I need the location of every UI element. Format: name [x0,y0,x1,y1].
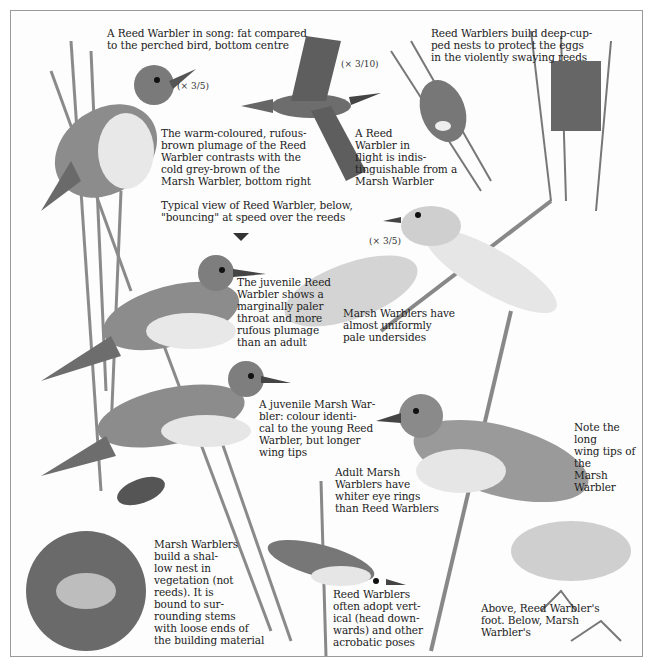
juvenile-reed-warbler-icon [41,255,266,381]
bouncing-bird-icon [233,233,249,241]
scale-marsh-bird: (× 3/5) [369,236,401,246]
caption-bouncing: Typical view of Reed Warbler, below, "bo… [161,199,353,223]
caption-reed-warbler-song: A Reed Warbler in song: fat compared to … [107,27,307,51]
caption-marsh-undersides: Marsh Warblers have almost uniformly pal… [343,307,455,343]
marsh-nest-icon [26,471,169,651]
caption-eye-rings: Adult Marsh Warblers have whiter eye rin… [335,466,439,514]
caption-reed-nests: Reed Warblers build deep-cup- ped nests … [431,27,592,63]
caption-juvenile-reed: The juvenile Reed Warbler shows a margin… [237,276,331,348]
caption-feet: Above, Reed Warbler's foot. Below, Marsh… [481,602,600,638]
caption-wing-tips: Note the long wing tips of the Marsh War… [574,421,642,493]
illustration-plate: A Reed Warbler in song: fat compared to … [10,10,643,657]
caption-acrobatic: Reed Warblers often adopt vert- ical (he… [333,588,423,648]
caption-plumage: The warm-coloured, rufous- brown plumage… [161,127,311,187]
caption-juvenile-marsh: A juvenile Marsh War- bler: colour ident… [259,398,375,458]
caption-flight: A Reed Warbler in flight is indis- tingu… [355,127,457,187]
caption-marsh-nest: Marsh Warblers build a shal- low nest in… [154,538,264,646]
juvenile-marsh-warbler-icon [41,361,291,476]
scale-song-bird: (× 3/5) [177,81,209,91]
scale-flight-bird: (× 3/10) [341,59,379,69]
